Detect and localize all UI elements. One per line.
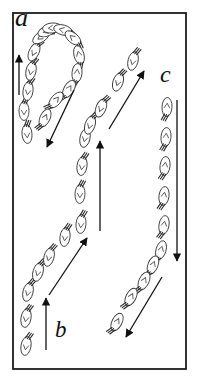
organism-movement-diagram bbox=[0, 0, 198, 389]
label-b: b bbox=[55, 318, 67, 341]
label-c: c bbox=[160, 62, 171, 86]
figure-canvas: a b c bbox=[0, 0, 198, 389]
label-a: a bbox=[15, 5, 28, 31]
